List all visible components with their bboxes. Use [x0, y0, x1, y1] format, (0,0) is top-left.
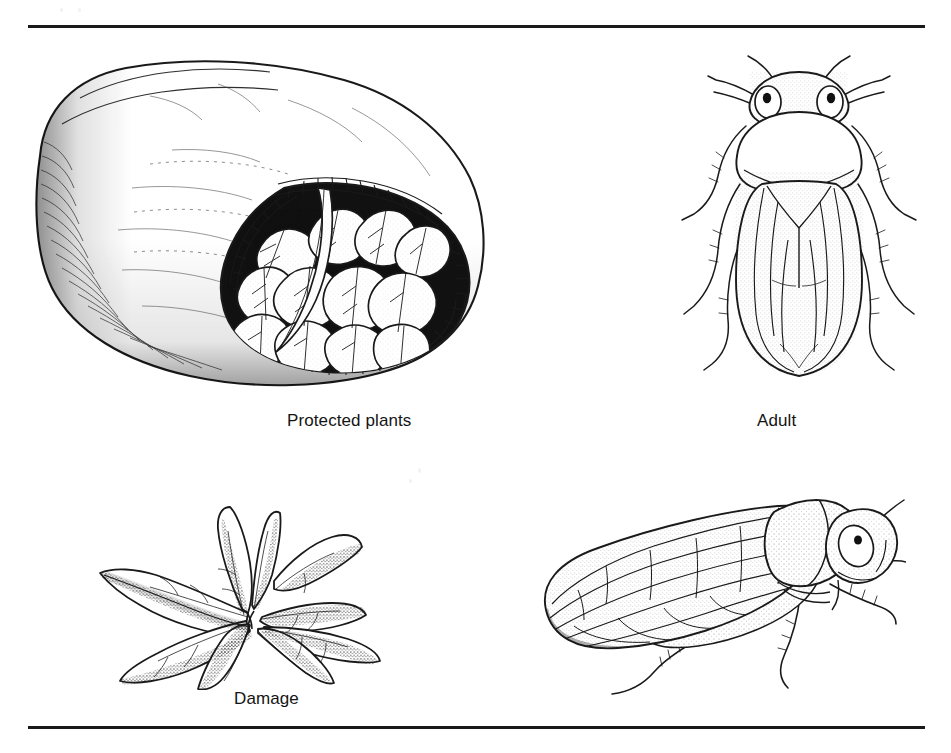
scan-noise	[409, 479, 412, 483]
caption-protected-plants: Protected plants	[287, 411, 411, 431]
scan-noise	[60, 8, 63, 12]
scan-noise	[78, 8, 81, 12]
leafhopper-dorsal-illustration	[668, 52, 930, 398]
row-cover-illustration	[22, 38, 502, 398]
figure-protected-plants	[22, 38, 502, 398]
bottom-horizontal-rule	[28, 726, 925, 729]
figure-damage	[78, 505, 408, 690]
scan-noise	[418, 468, 421, 473]
figure-adult-leafhopper	[668, 52, 930, 398]
top-horizontal-rule	[28, 25, 925, 28]
caption-damage: Damage	[234, 689, 299, 709]
figure-page: Protected plants	[0, 0, 951, 753]
figure-adult-leafhopper-lateral	[478, 468, 906, 700]
damaged-plant-illustration	[78, 505, 408, 690]
leafhopper-lateral-illustration	[478, 468, 906, 700]
caption-adult: Adult	[757, 411, 796, 431]
